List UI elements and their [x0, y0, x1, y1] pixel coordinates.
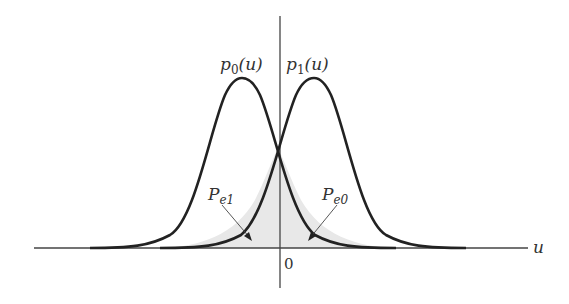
origin-label: 0 — [284, 255, 294, 273]
diagram-canvas: p0(u) p1(u) Pe1 Pe0 u 0 — [0, 0, 569, 304]
x-axis-label: u — [533, 237, 544, 257]
pe1-label: Pe1 — [207, 184, 234, 207]
pe0-label: Pe0 — [321, 184, 349, 207]
p0-label: p0(u) — [220, 54, 263, 77]
error-region-shade — [160, 148, 396, 248]
p1-label: p1(u) — [286, 54, 329, 77]
